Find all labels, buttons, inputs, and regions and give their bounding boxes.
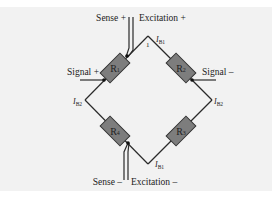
label-excitation-minus: Excitation – [131,177,177,187]
label-ib2-right: IB2 [213,97,223,107]
label-signal-minus: Signal – [202,67,234,77]
label-sense-plus: Sense + [96,13,126,23]
label-ib2-left: IB2 [72,97,82,107]
label-node-1: 1 [146,41,150,49]
label-ib1-bottom: IB1 [154,160,164,170]
label-sense-minus: Sense – [93,177,123,187]
sense-plus-lead [126,17,129,57]
junction-top-left [125,54,129,58]
label-signal-plus: Signal + [67,67,99,77]
wheatstone-bridge-diagram: R1 R2 R4 R3 Sense + Excitation + Signal … [0,0,272,198]
label-ib1-top: IB1 [155,35,165,45]
junction-bottom-left [126,141,130,145]
excitation-minus-lead [128,143,129,180]
label-excitation-plus: Excitation + [139,13,186,23]
